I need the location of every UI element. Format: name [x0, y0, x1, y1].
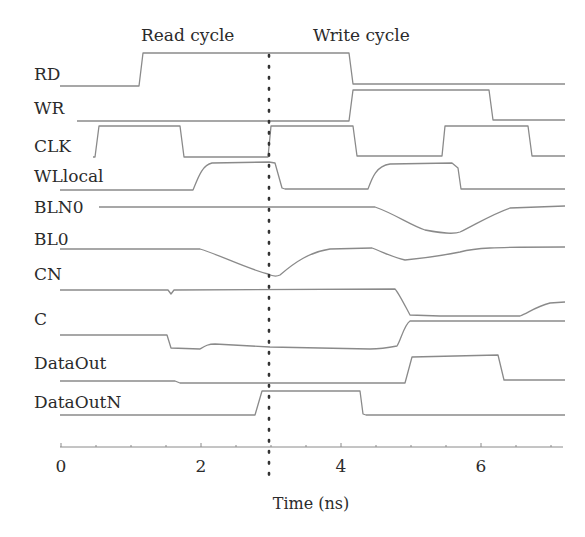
trace-dataoutn [60, 391, 565, 415]
x-tick-6: 6 [476, 456, 487, 476]
x-tick-2: 2 [196, 456, 207, 476]
timing-diagram [0, 0, 585, 537]
trace-rd [60, 53, 565, 86]
x-tick-0: 0 [56, 456, 67, 476]
trace-dataout [60, 355, 565, 383]
axis-ticks [61, 443, 551, 447]
trace-wr [77, 90, 565, 121]
trace-bln0 [99, 206, 565, 233]
trace-wllocal [60, 162, 565, 190]
x-axis-title: Time (ns) [273, 494, 350, 514]
trace-cn [60, 289, 565, 316]
trace-bl0 [60, 247, 565, 276]
trace-clk [93, 126, 565, 157]
trace-c [60, 321, 565, 349]
x-tick-4: 4 [336, 456, 347, 476]
